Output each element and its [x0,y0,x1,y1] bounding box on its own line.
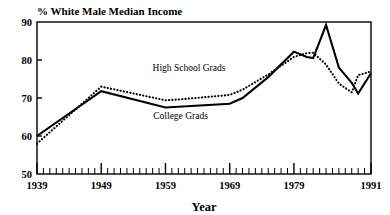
series-annotations: High School GradsCollege Grads [153,63,226,121]
line-chart: % White Male Median Income 5060708090 19… [0,0,390,215]
chart-title: % White Male Median Income [37,5,182,17]
x-tick-label: 1991 [361,180,382,191]
y-axis-ticks: 5060708090 [22,17,43,180]
data-series-group [37,25,371,144]
y-tick-label: 80 [22,55,33,66]
series-annotation: High School Grads [153,63,226,73]
chart-title-group: % White Male Median Income [37,5,182,17]
series-annotation: College Grads [153,111,208,121]
x-axis-ticks: 193919491959196919791991 [27,163,382,191]
x-tick-label: 1969 [219,180,240,191]
plot-frame [37,22,371,174]
y-tick-label: 60 [22,131,33,142]
y-tick-label: 70 [22,93,33,104]
x-tick-label: 1949 [91,180,112,191]
x-tick-label: 1959 [155,180,176,191]
x-axis-label: Year [192,200,217,214]
y-tick-label: 90 [22,17,33,28]
y-tick-label: 50 [22,169,33,180]
chart-container: % White Male Median Income 5060708090 19… [0,0,390,215]
x-tick-label: 1939 [27,180,48,191]
x-tick-label: 1979 [283,180,304,191]
